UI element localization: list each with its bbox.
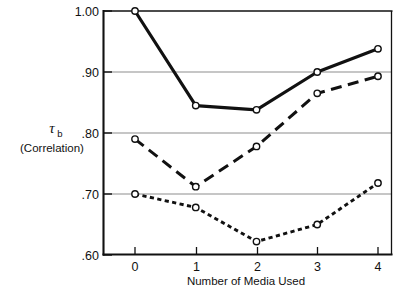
x-tick-label-4: 4 [375, 260, 382, 274]
data-point-dotted-0 [132, 191, 138, 197]
data-point-dashed-3 [314, 90, 320, 96]
x-tick-label-2: 2 [254, 260, 261, 274]
x-axis-title: Number of Media Used [187, 275, 305, 287]
x-tick-label-0: 0 [132, 260, 139, 274]
data-point-dotted-4 [375, 180, 381, 186]
data-point-solid-1 [193, 102, 199, 108]
x-tick-label-1: 1 [193, 260, 200, 274]
x-tick-labels: 0 1 2 3 4 [132, 260, 382, 274]
y-tick-labels: 1.00 .90 .80 .70 .60 [75, 5, 99, 263]
line-chart: 1.00 .90 .80 .70 .60 0 1 2 3 4 Number of… [0, 0, 410, 289]
data-point-dashed-1 [193, 183, 199, 189]
data-point-dotted-1 [193, 204, 199, 210]
data-point-solid-4 [375, 46, 381, 52]
y-axis-title-secondary: (Correlation) [20, 142, 84, 154]
data-point-dashed-2 [253, 143, 259, 149]
y-tick-label-0.60: .60 [82, 249, 99, 263]
y-tick-label-1.00: 1.00 [75, 5, 99, 19]
y-tick-label-0.80: .80 [82, 127, 99, 141]
y-tick-label-0.70: .70 [82, 188, 99, 202]
data-point-dotted-3 [314, 221, 320, 227]
y-axis-title-group: τ b (Correlation) [20, 120, 84, 154]
y-tick-label-0.90: .90 [82, 66, 99, 80]
data-point-solid-3 [314, 69, 320, 75]
data-point-dashed-0 [132, 136, 138, 142]
data-point-solid-0 [132, 8, 138, 14]
data-point-dotted-2 [253, 238, 259, 244]
x-tick-label-3: 3 [314, 260, 321, 274]
y-axis-title-subscript: b [57, 128, 62, 139]
data-point-solid-2 [253, 107, 259, 113]
y-axis-title-tau: τ [49, 120, 55, 136]
data-point-dashed-4 [375, 73, 381, 79]
figure-container: 1.00 .90 .80 .70 .60 0 1 2 3 4 Number of… [0, 0, 410, 289]
